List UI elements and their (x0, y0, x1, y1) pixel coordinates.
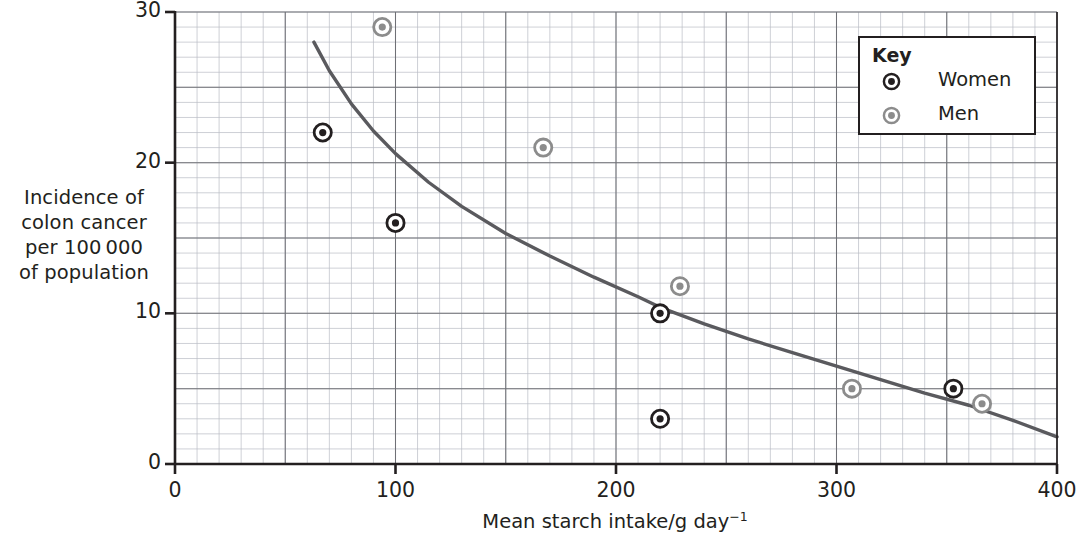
legend-marker-women-icon (882, 72, 901, 91)
y-axis-label-line-1: colon cancer (8, 210, 160, 235)
data-point-core-men-1 (540, 144, 547, 151)
x-tick-label-4: 400 (1007, 478, 1089, 502)
y-axis-label-line-0: Incidence of (8, 185, 160, 210)
legend-marker-men-icon (882, 106, 901, 125)
data-point-core-women-1 (392, 219, 399, 226)
y-axis-label: Incidence of colon cancer per 100 000 of… (8, 185, 160, 285)
legend-item-women: Women (872, 67, 1032, 97)
x-axis-label: Mean starch intake/g day−1 (390, 510, 840, 533)
data-point-core-men-4 (978, 400, 985, 407)
y-tick-label-2: 20 (65, 149, 161, 173)
data-point-core-women-3 (657, 415, 664, 422)
legend-title: Key (872, 44, 912, 66)
legend-label-men: Men (938, 102, 979, 125)
legend-label-women: Women (938, 68, 1011, 91)
x-tick-label-0: 0 (125, 478, 225, 502)
y-tick-label-0: 0 (65, 450, 161, 474)
x-tick-label-3: 300 (787, 478, 887, 502)
y-axis-label-line-2: per 100 000 (8, 235, 160, 260)
data-point-core-men-2 (676, 283, 683, 290)
legend-item-men: Men (872, 101, 1032, 131)
x-axis-label-text: Mean starch intake/g day (482, 510, 729, 533)
x-tick-label-2: 200 (566, 478, 666, 502)
data-point-core-women-4 (950, 385, 957, 392)
data-point-core-men-3 (848, 385, 855, 392)
data-point-core-men-0 (379, 23, 386, 30)
data-point-core-women-2 (657, 310, 664, 317)
x-axis-label-exponent: −1 (729, 509, 747, 524)
y-tick-label-3: 30 (65, 0, 161, 22)
legend: Key Women Men (858, 36, 1036, 135)
chart-figure: Incidence of colon cancer per 100 000 of… (0, 0, 1089, 546)
x-tick-label-1: 100 (346, 478, 446, 502)
y-axis-label-line-3: of population (8, 260, 160, 285)
y-tick-label-1: 10 (65, 299, 161, 323)
data-point-core-women-0 (319, 129, 326, 136)
